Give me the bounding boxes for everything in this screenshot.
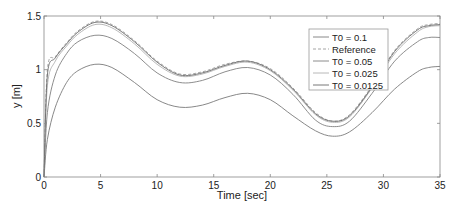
legend-label: T0 = 0.0125 (332, 80, 383, 91)
x-tick-label: 10 (152, 180, 164, 191)
y-tick-label: 0.5 (27, 118, 41, 129)
x-tick-label: 30 (378, 180, 390, 191)
x-tick-label: 35 (434, 180, 446, 191)
x-tick-label: 25 (321, 180, 333, 191)
x-axis-label: Time [sec] (217, 189, 267, 201)
line-chart: 05101520253035 00.511.5 Time [sec] y [m]… (0, 0, 459, 213)
y-tick-label: 0 (35, 172, 41, 183)
legend-label: Reference (332, 44, 376, 55)
legend: T0 = 0.1ReferenceT0 = 0.05T0 = 0.025T0 =… (309, 29, 388, 91)
legend-label: T0 = 0.05 (332, 56, 372, 67)
y-tick-label: 1.5 (27, 11, 41, 22)
y-tick-label: 1 (35, 64, 41, 75)
legend-label: T0 = 0.025 (332, 68, 378, 79)
legend-label: T0 = 0.1 (332, 32, 367, 43)
x-tick-label: 0 (41, 180, 47, 191)
x-tick-label: 5 (98, 180, 104, 191)
y-axis-label: y [m] (10, 84, 22, 108)
